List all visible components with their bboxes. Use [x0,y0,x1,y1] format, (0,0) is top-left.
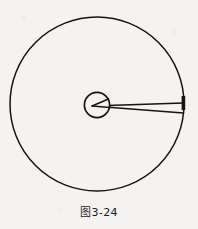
figure-drawing [0,0,198,229]
edge-tick-mark [182,96,186,110]
figure-container: 图3-24 [0,0,198,229]
figure-caption: 图3-24 [0,203,198,219]
